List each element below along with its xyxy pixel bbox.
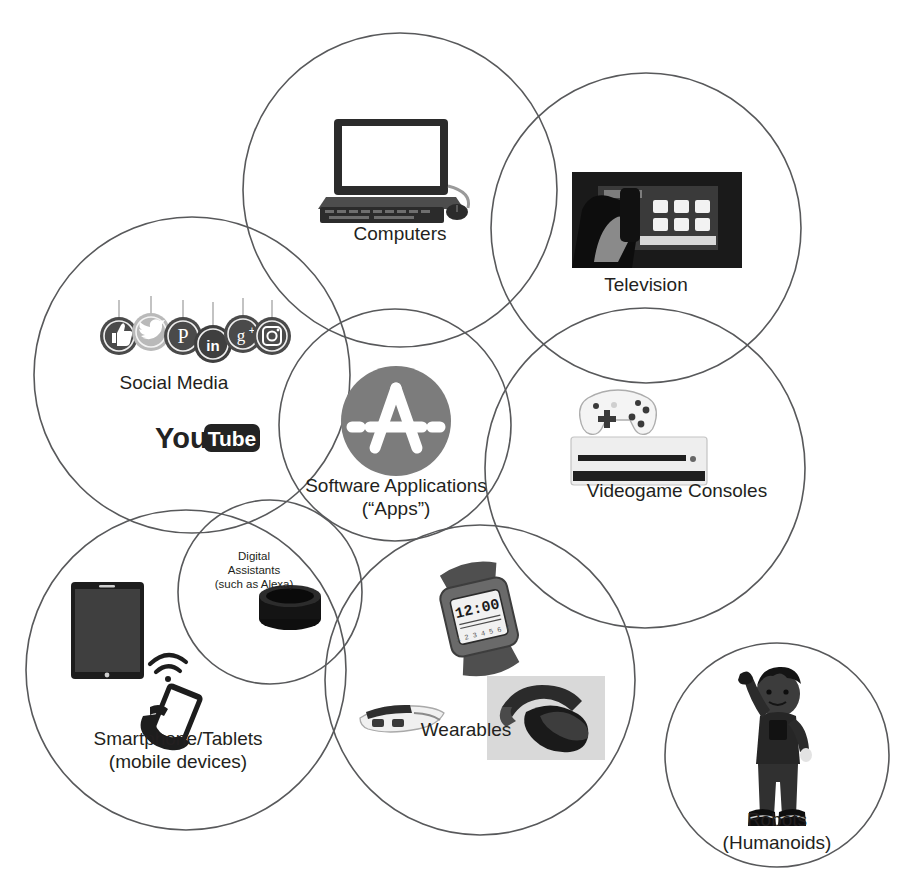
label-wearables: Wearables <box>366 718 566 741</box>
twitter-icon <box>132 313 170 351</box>
smart-speaker-puck <box>259 585 321 630</box>
venn-diagram-figure: P in g + <box>0 0 900 881</box>
facebook-icon <box>100 317 138 355</box>
smartwatch: 12:00 1 2 3 4 5 6 7 <box>434 556 526 682</box>
tv-remote-photo <box>572 172 742 268</box>
label-software-applications: Software Applications (“Apps”) <box>276 474 516 520</box>
game-console-icon <box>571 437 707 485</box>
label-computers: Computers <box>300 222 500 245</box>
svg-text:in: in <box>206 337 219 354</box>
svg-text:You: You <box>155 422 208 454</box>
tablet-device <box>71 582 144 679</box>
game-console-and-controller <box>571 390 707 485</box>
label-television: Television <box>546 273 746 296</box>
svg-text:Tube: Tube <box>208 427 257 450</box>
social-media-icons: P in g + <box>100 296 291 363</box>
app-store-a-icon <box>341 366 451 476</box>
instagram-icon <box>253 317 291 355</box>
label-digital-assistants: Digital Assistants (such as Alexa) <box>184 549 324 591</box>
svg-text:g: g <box>237 326 246 345</box>
label-videogame-consoles: Videogame Consoles <box>547 479 807 502</box>
humanoid-robot-figure <box>738 667 812 826</box>
laptop-keyboard-mouse-icon <box>318 119 469 223</box>
youtube-logo: You Tube <box>155 422 260 454</box>
label-smartphone-tablets: Smartphone/Tablets (mobile devices) <box>58 727 298 773</box>
label-robots: Robots (Humanoids) <box>697 808 857 854</box>
label-social-media: Social Media <box>74 371 274 394</box>
svg-text:P: P <box>177 325 188 347</box>
game-controller-icon <box>580 390 657 434</box>
